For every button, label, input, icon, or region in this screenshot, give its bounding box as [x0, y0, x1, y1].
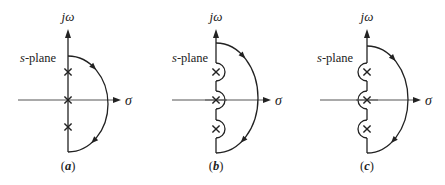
imaginary-axis-arrow-icon [364, 29, 370, 38]
nyquist-contour-arc [216, 43, 258, 153]
panel-c: jωσs-plane(c) [317, 9, 433, 173]
imaginary-axis-label: jω [208, 9, 223, 24]
panel-caption: (b) [209, 159, 224, 173]
diagram-canvas: jωσs-plane(a)jωσs-plane(b)jωσs-plane(c) [0, 0, 445, 185]
nyquist-contour-arc [68, 56, 108, 152]
imaginary-axis-label: jω [359, 9, 374, 24]
real-axis-arrow-icon [263, 97, 271, 103]
pole-indentation-right [216, 63, 225, 81]
real-axis-arrow-icon [113, 97, 121, 103]
s-plane-label: s-plane [172, 51, 209, 65]
imaginary-axis-label: jω [60, 9, 75, 24]
real-axis-label: σ [125, 93, 133, 108]
imaginary-axis-arrow-icon [213, 29, 219, 38]
panel-caption: (c) [360, 159, 374, 173]
real-axis-label: σ [425, 93, 433, 108]
nyquist-contour-figure: jωσs-plane(a)jωσs-plane(b)jωσs-plane(c) [0, 0, 445, 185]
panel-caption: (a) [61, 159, 76, 173]
imaginary-axis-arrow-icon [65, 29, 71, 38]
panel-a: jωσs-plane(a) [18, 9, 133, 173]
pole-indentation-left [358, 120, 367, 138]
pole-indentation-right [216, 120, 225, 138]
pole-indentation-left [358, 63, 367, 81]
panel-b: jωσs-plane(b) [172, 9, 283, 173]
s-plane-label: s-plane [20, 51, 57, 65]
real-axis-label: σ [275, 93, 283, 108]
real-axis-arrow-icon [413, 97, 421, 103]
s-plane-label: s-plane [317, 51, 354, 65]
